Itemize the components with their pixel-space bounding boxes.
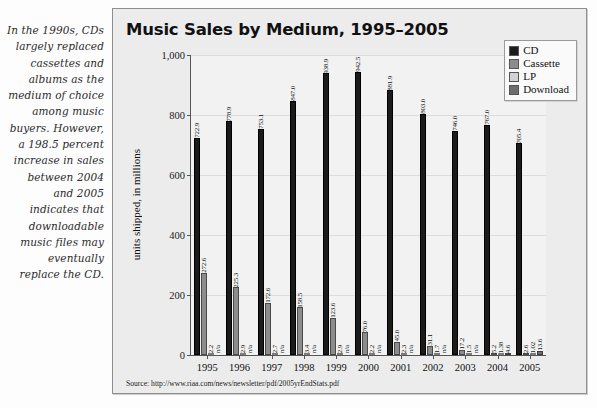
bar-value-label: 158.5 [297,293,304,308]
x-tick-mark [433,355,434,359]
bar-value-label: 938.9 [322,59,329,74]
bar-value-label: 31.1 [426,334,433,345]
legend-label: Cassette [523,57,560,70]
bar-value-label: 942.5 [354,57,361,72]
bar-lp[interactable]: 2.2 [208,353,214,355]
bar-cd[interactable]: 753.1 [258,129,264,355]
x-tick-mark [336,355,337,359]
bar-download[interactable]: n/a [408,354,414,355]
bar-lp[interactable]: 3.4 [304,353,310,355]
x-tick-mark [239,355,240,359]
legend-item-cd[interactable]: CD [509,44,569,57]
bar-cassette[interactable]: 272.6 [201,273,207,355]
bar-value-label: 172.6 [265,288,272,303]
legend-item-lp[interactable]: LP [509,70,569,83]
bar-value-label: 13.6 [537,339,544,350]
y-axis-title-text: units shipped, in millions [130,149,142,260]
x-tick-mark [207,355,208,359]
y-tick-label: 600 [169,170,191,181]
bar-download[interactable]: n/a [215,354,221,355]
legend-label: Download [523,83,569,96]
bar-download[interactable]: n/a [441,354,447,355]
bar-value-label: 746.0 [451,116,458,131]
y-tick-label: 400 [169,230,191,241]
y-tick-label: 800 [169,110,191,121]
bar-lp[interactable]: 1.7 [434,353,440,355]
bar-value-label: n/a [408,345,415,353]
bar-cd[interactable]: 881.9 [387,90,393,355]
x-tick-label: 2005 [519,362,540,373]
x-tick-label: 1998 [293,362,314,373]
bar-download[interactable]: n/a [344,354,350,355]
bar-value-label: n/a [343,345,350,353]
x-tick-label: 1995 [197,362,218,373]
bar-cd[interactable]: 778.9 [226,121,232,355]
bar-lp[interactable]: 2.9 [240,353,246,355]
x-tick-label: 2000 [358,362,379,373]
bar-download[interactable]: n/a [376,354,382,355]
bar-download[interactable]: n/a [473,354,479,355]
bar-download[interactable]: n/a [247,354,253,355]
bar-value-label: 705.4 [516,129,523,144]
bar-value-label: 753.1 [258,114,265,129]
bar-value-label: 272.6 [200,258,207,273]
bar-download[interactable]: 13.6 [537,351,543,355]
legend-label: LP [523,70,536,83]
legend-item-cassette[interactable]: Cassette [509,57,569,70]
legend-label: CD [523,44,538,57]
x-tick-mark [401,355,402,359]
bar-cd[interactable]: 722.9 [194,138,200,355]
x-tick-mark [304,355,305,359]
x-tick-mark [498,355,499,359]
x-tick-mark [530,355,531,359]
x-tick-label: 1999 [326,362,347,373]
x-tick-label: 2002 [423,362,444,373]
bar-group: 938.9123.62.9n/a1999 [320,55,352,355]
bar-value-label: 225.3 [232,273,239,288]
bar-lp[interactable]: 1.02 [530,353,536,355]
bar-value-label: 778.9 [225,107,232,122]
bar-value-label: 803.0 [419,99,426,114]
bar-group: 881.945.02.3n/a2001 [385,55,417,355]
bar-value-label: n/a [214,345,221,353]
bar-value-label: 4.6 [505,345,512,353]
x-tick-label: 2001 [390,362,411,373]
x-tick-label: 2004 [487,362,508,373]
bar-value-label: 123.6 [329,303,336,318]
bar-lp[interactable]: 1.5 [466,353,472,355]
bar-group: 942.576.02.2n/a2000 [352,55,384,355]
legend-swatch-icon [509,46,519,56]
bar-value-label: n/a [440,345,447,353]
bar-group: 847.0158.53.4n/a1998 [288,55,320,355]
bar-cd[interactable]: 847.0 [290,101,296,355]
legend-swatch-icon [509,85,519,95]
chart-legend: CDCassetteLPDownload [504,40,577,101]
bar-lp[interactable]: 2.9 [337,353,343,355]
bar-lp[interactable]: 1.38 [498,353,504,355]
y-tick-label: 200 [169,290,191,301]
legend-item-download[interactable]: Download [509,83,569,96]
bar-lp[interactable]: 2.3 [401,353,407,355]
x-tick-label: 1997 [261,362,282,373]
bar-cd[interactable]: 705.4 [516,143,522,355]
x-tick-mark [368,355,369,359]
bar-download[interactable]: 4.6 [505,353,511,355]
chart-title: Music Sales by Medium, 1995–2005 [126,20,449,39]
bar-group: 722.9272.62.2n/a1995 [191,55,223,355]
bar-cd[interactable]: 942.5 [355,72,361,355]
bar-value-label: n/a [246,345,253,353]
bar-value-label: 767.0 [484,110,491,125]
bar-cd[interactable]: 767.0 [484,125,490,355]
bar-cd[interactable]: 746.0 [452,131,458,355]
bar-cd[interactable]: 803.0 [420,114,426,355]
bar-lp[interactable]: 2.7 [272,353,278,355]
bar-value-label: n/a [311,345,318,353]
bar-group: 803.031.11.7n/a2002 [417,55,449,355]
plot-area: 02004006008001,000722.9272.62.2n/a199577… [190,55,546,356]
bar-download[interactable]: n/a [311,354,317,355]
bar-lp[interactable]: 2.2 [369,353,375,355]
bar-value-label: n/a [279,345,286,353]
bar-value-label: n/a [375,345,382,353]
bar-download[interactable]: n/a [279,354,285,355]
legend-swatch-icon [509,72,519,82]
